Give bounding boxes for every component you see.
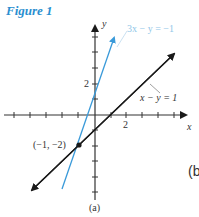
x-tick-label-2: 2: [123, 119, 128, 130]
line-3x-minus-y-eq-neg1: [62, 38, 114, 189]
equation-label-blue: 3x − y = −1: [127, 23, 174, 34]
figure-caption: (a): [89, 202, 100, 213]
intersection-point: [76, 142, 81, 147]
point-label: (−1, −2): [33, 139, 66, 150]
x-axis-label: x: [187, 121, 191, 132]
cutoff-caption: (b: [188, 163, 199, 179]
y-axis-label: y: [102, 18, 106, 29]
y-axis: [92, 26, 98, 200]
y-tick-label-2: 2: [84, 78, 89, 89]
equation-label-black: x − y = 1: [140, 92, 177, 103]
